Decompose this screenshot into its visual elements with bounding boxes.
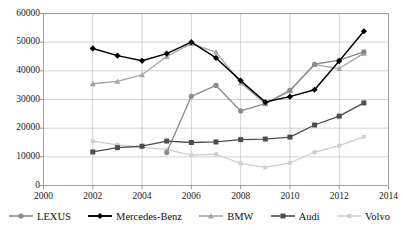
chart-legend: LEXUSMercedes-BenzBMWAudiVolvo xyxy=(0,206,398,226)
y-tick-label: 20000 xyxy=(0,123,40,133)
legend-item-mercedes-benz[interactable]: Mercedes-Benz xyxy=(87,210,182,222)
x-tick-label: 2006 xyxy=(171,192,211,202)
x-tick-label: 2008 xyxy=(221,192,261,202)
square-small-marker-icon xyxy=(336,210,362,222)
x-tick-label: 2002 xyxy=(73,192,113,202)
diamond-marker-icon xyxy=(87,210,113,222)
series-bmw xyxy=(90,41,367,107)
y-tick-label: 10000 xyxy=(0,152,40,162)
y-tick-label: 60000 xyxy=(0,9,40,19)
x-tick-label: 2010 xyxy=(270,192,310,202)
gridlines xyxy=(44,14,389,186)
circle-marker-icon xyxy=(8,210,34,222)
x-tick-label: 2004 xyxy=(122,192,162,202)
legend-item-volvo[interactable]: Volvo xyxy=(336,210,390,222)
y-tick-label: 50000 xyxy=(0,37,40,47)
legend-label: LEXUS xyxy=(34,211,71,222)
legend-label: Mercedes-Benz xyxy=(113,211,182,222)
x-tick-label: 2012 xyxy=(319,192,359,202)
legend-label: Volvo xyxy=(362,211,390,222)
y-tick-label: 0 xyxy=(0,181,40,191)
y-tick-label: 30000 xyxy=(0,95,40,105)
series-layer xyxy=(90,28,367,169)
legend-label: Audi xyxy=(296,211,320,222)
legend-item-bmw[interactable]: BMW xyxy=(198,210,253,222)
legend-item-audi[interactable]: Audi xyxy=(270,210,320,222)
y-tick-label: 40000 xyxy=(0,66,40,76)
x-tick-label: 2014 xyxy=(369,192,403,202)
legend-item-lexus[interactable]: LEXUS xyxy=(8,210,71,222)
x-tick-label: 2000 xyxy=(24,192,64,202)
square-marker-icon xyxy=(270,210,296,222)
series-volvo xyxy=(91,135,366,170)
triangle-marker-icon xyxy=(198,210,224,222)
series-audi xyxy=(90,100,366,154)
legend-label: BMW xyxy=(224,211,253,222)
axis-ticks xyxy=(40,14,389,190)
